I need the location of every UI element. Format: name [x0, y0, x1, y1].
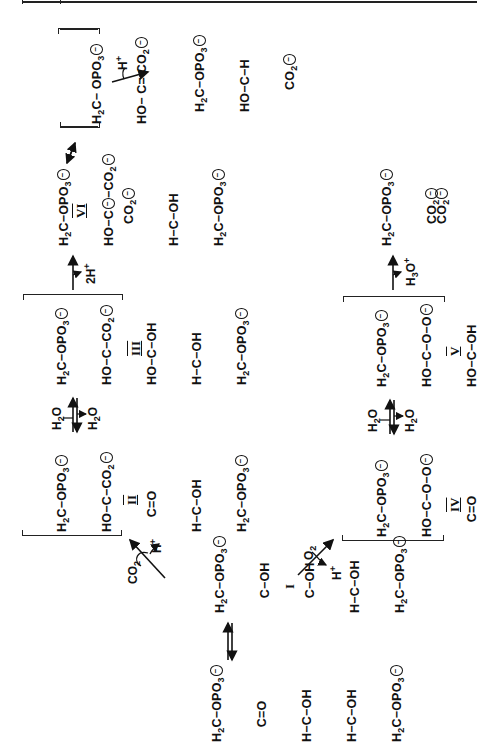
label-V: V [447, 347, 463, 356]
molecule-3-phosphoglycerate-top: H2C−OPO3− HO−C−H CO2− [163, 35, 313, 112]
label-III: III [128, 341, 144, 356]
molecule-VI-resonance: H2C− OPO3− HO− C= CO2− [60, 37, 165, 124]
label-IV: IV [447, 498, 463, 512]
reagent-co2: CO2 [126, 561, 140, 584]
reagent-h-plus-protonation: H+ [116, 56, 130, 70]
hydration-arrow-right [380, 400, 403, 434]
reagent-2h-plus: 2H+ [84, 263, 98, 284]
molecule-3-phosphoglycerate-left: CO2− H−C−OH H2C−OPO3− [92, 169, 242, 246]
reagent-h-plus-carboxylation: H+ [150, 539, 164, 553]
reagent-h2o-out-right: H2O [403, 409, 417, 432]
figure-frame-tick [60, 0, 61, 4]
reagent-o2: O2 [302, 546, 316, 560]
bracket-VI-resonance-top [58, 28, 100, 34]
molecule-IV: H2C−OPO3− HO−C−O−O− C=O H−C−OH H2C−OPO3− [345, 454, 477, 537]
molecule-3-phosphoglycerate-right: CO2− H−C−OH H2C−OPO3− [405, 169, 477, 246]
bracket-III-top [23, 294, 123, 300]
reagent-h2o-in-left: H2O [50, 407, 64, 430]
label-I: I [282, 584, 298, 589]
cleavage-arrow-left [73, 256, 81, 290]
hydration-arrow-left [63, 398, 86, 432]
molecule-III: H2C−OPO3− HO−C−CO2− HO−C−OH H−C−OH H2C−O… [25, 305, 265, 385]
figure-frame-top [22, 1, 477, 3]
reagent-h2o-in-right: H2O [366, 409, 380, 432]
molecule-II: H2C−OPO3− HO−C−CO2− C=O H−C−OH H2C−OPO3− [25, 452, 265, 532]
reagent-h3o-plus: H3O+ [404, 258, 418, 286]
equilibrium-arrow-ketone-enediol [228, 623, 232, 660]
molecule-ribulose-bisphosphate: H2C−OPO3− C=O H−C−OH H−C−OH H2C−OPO3− [180, 665, 420, 742]
reagent-h2o-out-left: H2O [86, 407, 100, 430]
reagent-h-plus-oxygenation: H+ [330, 566, 344, 580]
cleavage-arrow-right [393, 256, 401, 290]
label-II: II [124, 495, 140, 505]
bracket-V-top [343, 296, 445, 302]
label-VI: VI [73, 204, 89, 218]
